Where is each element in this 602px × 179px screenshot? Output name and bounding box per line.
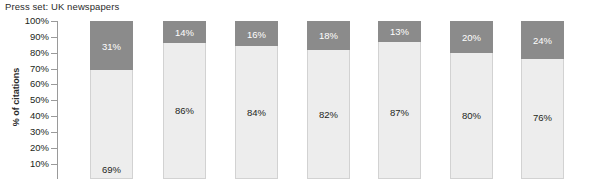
bar-segment-lower[interactable]: 80%	[450, 53, 493, 179]
bar-segment-upper[interactable]: 18%	[307, 21, 350, 50]
y-axis-tick-label: 30%	[30, 125, 49, 138]
bar-segment-upper[interactable]: 24%	[521, 21, 564, 59]
y-axis-tick-label: 50%	[30, 93, 49, 106]
y-axis-tick-label: 40%	[30, 109, 49, 122]
y-axis-tick: 20%	[0, 148, 57, 149]
y-axis-tick-label: 90%	[30, 30, 49, 43]
bar-segment-upper-label: 20%	[462, 32, 481, 44]
bar-segment-upper-label: 14%	[175, 27, 194, 39]
y-axis-tick-label: 70%	[30, 62, 49, 75]
bar-segment-upper-label: 16%	[247, 29, 266, 41]
bar-segment-lower[interactable]: 86%	[163, 43, 206, 179]
bar-segment-lower-label: 82%	[319, 109, 338, 121]
y-axis-tick: 40%	[0, 116, 57, 117]
bar-segment-upper[interactable]: 31%	[90, 21, 133, 70]
y-axis-tick: 100%	[0, 21, 57, 22]
bar-segment-lower[interactable]: 69%	[90, 70, 133, 179]
y-axis-tick: 50%	[0, 100, 57, 101]
bar-segment-lower[interactable]: 82%	[307, 50, 350, 179]
bar-segment-upper-label: 31%	[102, 41, 121, 53]
y-axis-tick: 80%	[0, 53, 57, 54]
bar-segment-lower[interactable]: 87%	[378, 42, 421, 179]
bar-segment-upper[interactable]: 13%	[378, 21, 421, 42]
bar-segment-upper[interactable]: 14%	[163, 21, 206, 43]
bar-segment-lower-label: 76%	[533, 112, 552, 124]
y-axis-tick-label: 80%	[30, 46, 49, 59]
y-axis-tick-label: 60%	[30, 77, 49, 90]
bar-segment-lower-label: 69%	[102, 164, 121, 176]
bar-segment-upper[interactable]: 16%	[235, 21, 278, 46]
bar-segment-lower-label: 87%	[390, 107, 409, 119]
bar-segment-upper-label: 24%	[533, 35, 552, 47]
y-axis-tick-label: 10%	[30, 157, 49, 170]
bar-segment-upper[interactable]: 20%	[450, 21, 493, 53]
y-axis-tick: 10%	[0, 164, 57, 165]
y-axis-tick: 70%	[0, 69, 57, 70]
bar-segment-upper-label: 13%	[390, 26, 409, 38]
y-axis-tick: 30%	[0, 132, 57, 133]
bar-segment-lower-label: 84%	[247, 107, 266, 119]
plot-area: 31%69%14%86%16%84%18%82%13%87%20%80%24%7…	[57, 21, 602, 179]
bar-segment-upper-label: 18%	[319, 30, 338, 42]
bar-segment-lower[interactable]: 84%	[235, 46, 278, 179]
y-axis-tick-label: 100%	[25, 14, 49, 27]
y-axis-tick: 60%	[0, 84, 57, 85]
chart-title: Press set: UK newspapers	[5, 1, 119, 13]
y-axis-tick-label: 20%	[30, 141, 49, 154]
bar-segment-lower-label: 86%	[175, 105, 194, 117]
bar-segment-lower[interactable]: 76%	[521, 59, 564, 179]
stacked-bar-chart: Press set: UK newspapers % of citations …	[0, 0, 602, 179]
bar-segment-lower-label: 80%	[462, 110, 481, 122]
y-axis-tick: 90%	[0, 37, 57, 38]
